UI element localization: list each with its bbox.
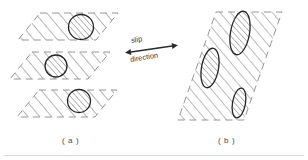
panel-b-caption: ( b )	[218, 136, 235, 145]
panel-b-group	[170, 6, 292, 128]
panel-a-group	[2, 8, 130, 125]
slip-block	[170, 6, 292, 128]
slip-label-top: slip	[130, 34, 143, 45]
figure-container: slip direction ( a ) ( b )	[0, 0, 308, 160]
slip-diagram-svg	[0, 0, 308, 160]
panel-a-caption: ( a )	[62, 136, 79, 145]
